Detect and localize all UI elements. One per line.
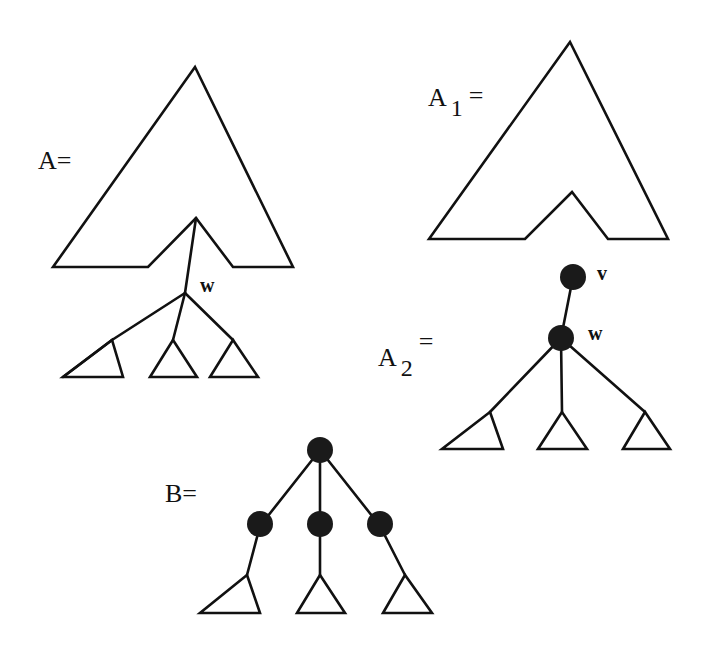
subtree-triangle-right bbox=[210, 340, 258, 377]
subtree-triangle-middle bbox=[150, 340, 197, 377]
node-w bbox=[548, 325, 574, 351]
node-child-middle bbox=[307, 511, 333, 537]
figure-a: A= w bbox=[38, 67, 293, 377]
tree-shape-a bbox=[53, 67, 293, 267]
node-root bbox=[307, 437, 333, 463]
subtree-triangle-left bbox=[442, 412, 503, 449]
subtree-triangle-middle bbox=[538, 412, 587, 449]
subtree-left-edge bbox=[63, 340, 112, 377]
label-a1: A1= bbox=[428, 81, 483, 121]
subtree-triangle-middle bbox=[297, 575, 345, 613]
node-child-left bbox=[247, 511, 273, 537]
edge-w-right bbox=[185, 293, 233, 340]
node-v bbox=[560, 264, 586, 290]
edge-w-left bbox=[490, 338, 561, 412]
node-child-right bbox=[367, 511, 393, 537]
label-a: A= bbox=[38, 146, 71, 175]
edge-root-right bbox=[320, 450, 380, 526]
figure-b: B= bbox=[165, 437, 432, 613]
node-label-w: w bbox=[200, 274, 215, 296]
subtree-triangle-right bbox=[623, 412, 670, 449]
label-a2: A2= bbox=[378, 327, 433, 381]
figure-a1: A1= bbox=[428, 42, 668, 239]
edge-w-right bbox=[561, 338, 645, 412]
node-label-w: w bbox=[588, 322, 603, 344]
label-b: B= bbox=[165, 479, 197, 508]
figure-a2: A2= v w bbox=[378, 262, 670, 449]
subtree-triangle-right bbox=[383, 575, 432, 613]
node-label-v: v bbox=[597, 262, 607, 284]
edge-root-left bbox=[260, 450, 320, 526]
diagram-canvas: A= w A1= A2= v w B= bbox=[0, 0, 703, 658]
subtree-triangle-left bbox=[200, 575, 260, 613]
tree-shape-a1 bbox=[429, 42, 668, 239]
